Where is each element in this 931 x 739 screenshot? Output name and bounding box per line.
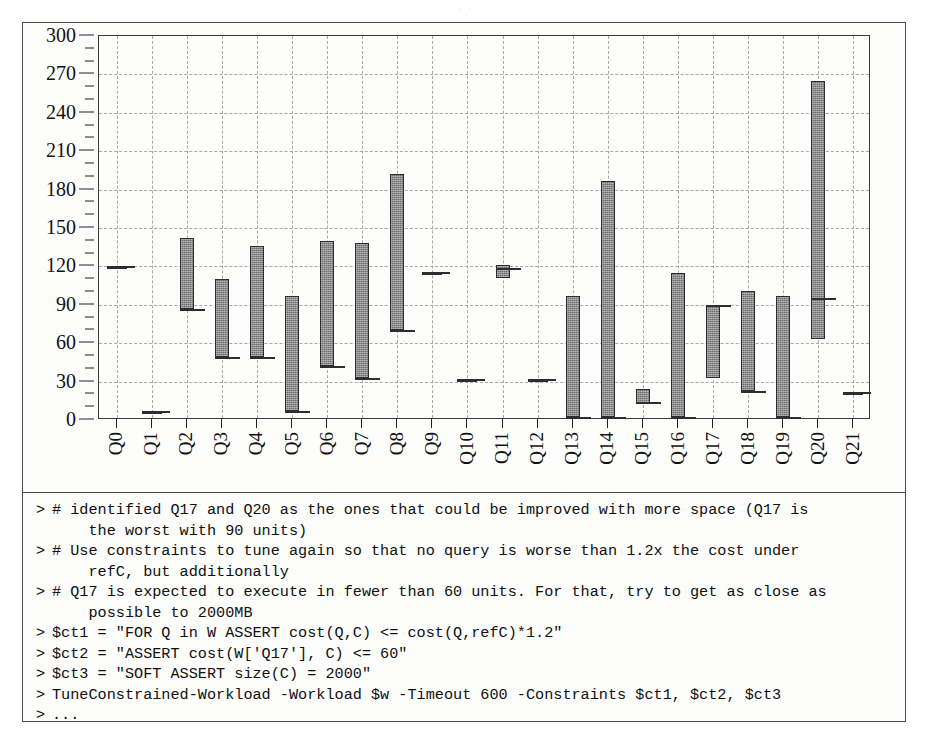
x-axis-tick	[151, 419, 152, 428]
range-bar[interactable]	[566, 296, 580, 418]
scan-artifact-text: . .	[0, 0, 931, 18]
y-axis-tick-minor	[85, 47, 94, 48]
range-bar[interactable]	[215, 279, 229, 357]
gridline-vertical	[117, 36, 118, 418]
x-axis-tick	[817, 419, 818, 428]
x-axis-tick	[291, 419, 292, 428]
range-bar[interactable]	[355, 243, 369, 377]
terminal-line: >$ct2 = "ASSERT cost(W['Q17'], C) <= 60"	[36, 644, 892, 665]
y-axis-tick-label: 150	[46, 217, 76, 237]
x-axis-tick	[116, 419, 117, 428]
y-axis-tick-label: 120	[46, 255, 76, 275]
range-bar[interactable]	[601, 181, 615, 418]
range-bar[interactable]	[706, 305, 720, 378]
range-bar[interactable]	[671, 273, 685, 418]
terminal-line: ># Use constraints to tune again so that…	[36, 541, 892, 562]
terminal-prompt: >	[36, 705, 52, 722]
x-axis-tick-label-q2: Q2	[176, 432, 195, 455]
x-axis-tick	[326, 419, 327, 428]
terminal-prompt: >	[36, 664, 52, 685]
gridline-vertical	[152, 36, 153, 418]
x-axis-tick	[537, 419, 538, 428]
range-bar[interactable]	[250, 246, 264, 357]
range-bar[interactable]	[390, 174, 404, 330]
x-axis-tick-label-q19: Q19	[773, 432, 792, 465]
y-axis-tick-label: 180	[46, 179, 76, 199]
gridline-horizontal	[99, 151, 869, 152]
y-axis-tick-minor	[85, 406, 94, 407]
x-axis-tick	[782, 419, 783, 428]
x-axis-tick-label-q14: Q14	[597, 432, 616, 465]
y-axis-tick-minor	[85, 201, 94, 202]
y-axis-tick-minor	[85, 291, 94, 292]
x-axis-tick	[221, 419, 222, 428]
reference-tick-mark	[741, 391, 766, 393]
terminal-prompt: >	[36, 623, 52, 644]
x-axis-tick-label-q10: Q10	[457, 432, 476, 465]
terminal-prompt: >	[36, 500, 52, 521]
terminal-prompt: >	[36, 644, 52, 665]
terminal-prompt: >	[36, 582, 52, 603]
terminal-command-text: $ct2 = "ASSERT cost(W['Q17'], C) <= 60"	[52, 644, 407, 665]
y-axis-tick-minor	[85, 239, 94, 240]
x-axis-tick-label-q17: Q17	[703, 432, 722, 465]
y-axis-tick-minor	[85, 163, 94, 164]
y-axis-tick-minor	[85, 252, 94, 253]
x-axis-tick	[677, 419, 678, 428]
gridline-vertical	[503, 36, 504, 418]
reference-tick-mark	[636, 402, 661, 404]
terminal-line: >TuneConstrained-Workload -Workload $w -…	[36, 685, 892, 706]
terminal-line: >...	[36, 705, 892, 722]
y-axis-tick-major	[79, 73, 94, 74]
x-axis-tick	[712, 419, 713, 428]
x-axis-tick	[502, 419, 503, 428]
y-axis-tick-minor	[85, 99, 94, 100]
x-axis-tick	[747, 419, 748, 428]
terminal-line: >$ct3 = "SOFT ASSERT size(C) = 2000"	[36, 664, 892, 685]
y-axis-tick-label: 270	[46, 63, 76, 83]
range-bar[interactable]	[776, 296, 790, 418]
x-axis-tick	[396, 419, 397, 428]
y-axis-tick-label: 240	[46, 102, 76, 122]
gridline-vertical	[222, 36, 223, 418]
reference-tick-mark	[531, 379, 556, 381]
y-axis-tick-minor	[85, 86, 94, 87]
reference-tick-mark	[811, 298, 836, 300]
range-bar[interactable]	[320, 241, 334, 366]
range-bar[interactable]	[180, 238, 194, 308]
x-axis-tick	[642, 419, 643, 428]
x-axis-tick	[607, 419, 608, 428]
range-bar[interactable]	[285, 296, 299, 411]
x-axis-tick-label-q4: Q4	[246, 432, 265, 455]
reference-tick-mark	[285, 411, 310, 413]
x-axis-tick-label-q18: Q18	[738, 432, 757, 465]
y-axis-tick-minor	[85, 60, 94, 61]
y-axis-tick-minor	[85, 316, 94, 317]
terminal-prompt: >	[36, 541, 52, 562]
x-axis-tick	[572, 419, 573, 428]
terminal-transcript[interactable]: ># identified Q17 and Q20 as the ones th…	[22, 492, 906, 722]
reference-tick-mark	[846, 392, 871, 394]
gridline-vertical	[432, 36, 433, 418]
y-axis-tick-label: 30	[56, 371, 76, 391]
y-axis-tick-major	[79, 227, 94, 228]
range-bar[interactable]	[741, 291, 755, 391]
y-axis-tick-minor	[85, 137, 94, 138]
terminal-command-text: TuneConstrained-Workload -Workload $w -T…	[52, 685, 781, 706]
terminal-prompt: >	[36, 685, 52, 706]
terminal-line: ># Q17 is expected to execute in fewer t…	[36, 582, 892, 603]
terminal-continuation-text: possible to 2000MB	[36, 603, 892, 624]
y-axis-tick-major	[79, 150, 94, 151]
y-axis-tick-label: 300	[46, 25, 76, 45]
y-axis-tick-major	[79, 188, 94, 189]
gridline-horizontal	[99, 113, 869, 114]
y-axis-tick-minor	[85, 329, 94, 330]
gridline-horizontal	[99, 74, 869, 75]
y-axis-tick-major	[79, 380, 94, 381]
x-axis-tick-label-q1: Q1	[141, 432, 160, 455]
range-bar[interactable]	[811, 81, 825, 340]
gridline-vertical	[187, 36, 188, 418]
reference-tick-mark	[706, 305, 731, 307]
x-axis-tick	[852, 419, 853, 428]
y-axis-tick-minor	[85, 175, 94, 176]
